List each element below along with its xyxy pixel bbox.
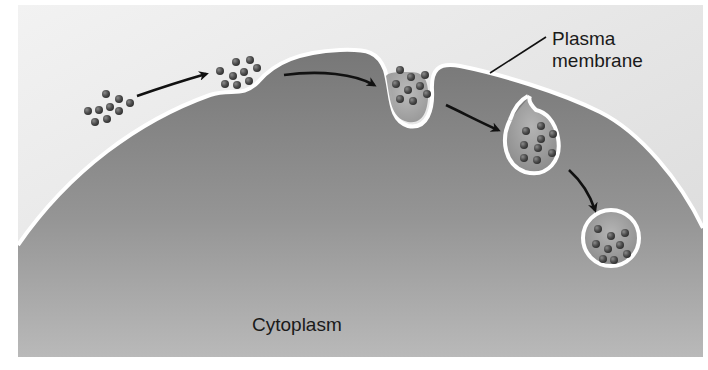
plasma-membrane-label-line2: membrane: [552, 50, 643, 72]
plasma-membrane-label-line1: Plasma: [552, 28, 643, 50]
endocytosis-diagram: Plasma membrane Cytoplasm: [0, 0, 708, 370]
plasma-membrane-label: Plasma membrane: [552, 28, 643, 72]
cytoplasm-label: Cytoplasm: [252, 314, 342, 336]
